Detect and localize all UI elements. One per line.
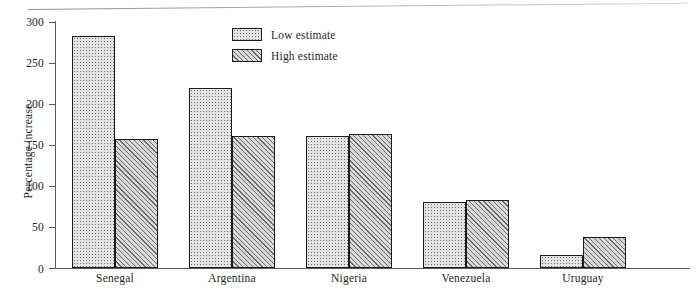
bar-venezuela-low-estimate [423,202,466,268]
legend-swatch-low-estimate [232,28,262,41]
legend-label-low-estimate: Low estimate [271,29,336,41]
bar-nigeria-low-estimate [306,136,349,268]
bar-uruguay-low-estimate [540,255,583,268]
bar-senegal-high-estimate [115,139,158,268]
x-axis-label-uruguay: Uruguay [510,272,656,284]
chart-legend: Low estimate High estimate [232,24,338,66]
bar-chart-figure: Percentage increase 050100150200250300 S… [0,0,697,298]
legend-swatch-high-estimate [232,49,262,62]
bar-venezuela-high-estimate [466,200,509,268]
bar-uruguay-high-estimate [583,237,626,268]
legend-item-high-estimate: High estimate [232,45,338,66]
bar-senegal-low-estimate [72,36,115,268]
bar-argentina-low-estimate [189,88,232,268]
bar-argentina-high-estimate [232,136,275,268]
legend-item-low-estimate: Low estimate [232,24,338,45]
bar-nigeria-high-estimate [349,134,392,268]
legend-label-high-estimate: High estimate [271,50,338,62]
plot-area [0,0,697,298]
